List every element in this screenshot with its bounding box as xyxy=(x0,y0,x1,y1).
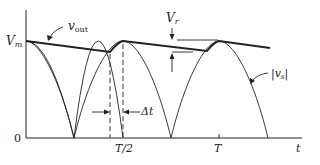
ripple-diagram: vout Vm Vr |vs| Δt 0 T/2 T t xyxy=(0,0,320,165)
vm-label: Vm xyxy=(6,34,23,49)
delta-t-label: Δt xyxy=(140,105,154,118)
vs-waveform xyxy=(26,41,123,138)
arrowhead-icon xyxy=(104,110,110,115)
vr-label: Vr xyxy=(166,11,180,26)
arrowhead-icon xyxy=(170,34,175,40)
arrowhead-icon xyxy=(47,35,53,41)
zero-label: 0 xyxy=(14,132,21,145)
vs-pointer xyxy=(252,73,268,81)
t-full-label: T xyxy=(214,142,223,155)
arrowhead-icon xyxy=(170,53,175,59)
vout-pointer xyxy=(50,27,63,37)
vs-arcs xyxy=(26,41,268,138)
t-half-label: T/2 xyxy=(115,142,133,155)
vs-label: |vs| xyxy=(271,67,288,81)
vout-label: vout xyxy=(68,19,89,34)
arrowhead-icon xyxy=(123,110,129,115)
t-axis-label: t xyxy=(296,142,301,155)
